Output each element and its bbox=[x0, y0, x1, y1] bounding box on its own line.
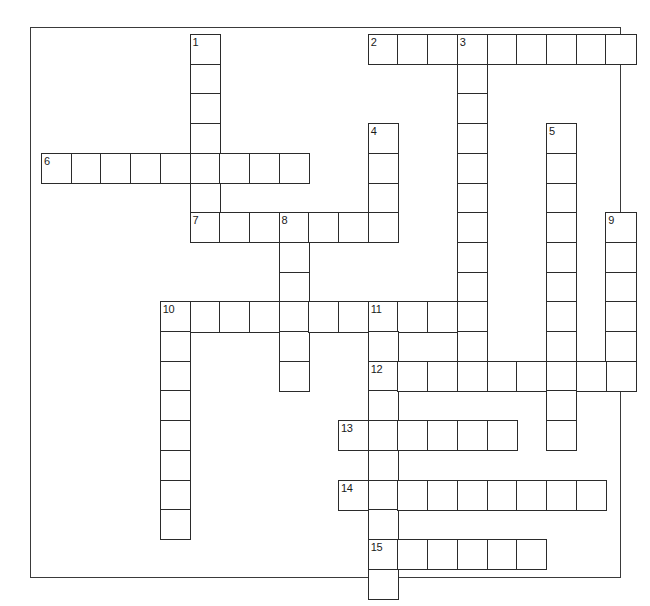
crossword-cell[interactable] bbox=[308, 212, 339, 243]
crossword-cell[interactable] bbox=[427, 301, 458, 332]
crossword-cell[interactable] bbox=[160, 153, 191, 184]
crossword-cell[interactable] bbox=[546, 480, 577, 511]
crossword-cell[interactable] bbox=[368, 123, 399, 154]
crossword-cell[interactable] bbox=[457, 212, 488, 243]
crossword-cell[interactable] bbox=[160, 480, 191, 511]
crossword-cell[interactable] bbox=[279, 153, 310, 184]
crossword-cell[interactable] bbox=[368, 509, 399, 540]
crossword-cell[interactable] bbox=[427, 34, 458, 65]
crossword-cell[interactable] bbox=[160, 450, 191, 481]
crossword-cell[interactable] bbox=[190, 301, 221, 332]
crossword-cell[interactable] bbox=[368, 331, 399, 362]
crossword-cell[interactable] bbox=[487, 361, 518, 392]
crossword-cell[interactable] bbox=[368, 390, 399, 421]
crossword-cell[interactable] bbox=[546, 212, 577, 243]
crossword-cell[interactable] bbox=[427, 480, 458, 511]
crossword-cell[interactable] bbox=[190, 183, 221, 214]
crossword-cell[interactable] bbox=[308, 301, 339, 332]
crossword-cell[interactable] bbox=[516, 539, 547, 570]
crossword-cell[interactable] bbox=[368, 212, 399, 243]
crossword-cell[interactable] bbox=[397, 34, 428, 65]
crossword-cell[interactable] bbox=[100, 153, 131, 184]
crossword-cell[interactable] bbox=[457, 480, 488, 511]
crossword-cell[interactable] bbox=[605, 212, 636, 243]
crossword-cell[interactable] bbox=[338, 212, 369, 243]
crossword-cell[interactable] bbox=[279, 212, 310, 243]
crossword-cell[interactable] bbox=[427, 361, 458, 392]
crossword-cell[interactable] bbox=[457, 539, 488, 570]
crossword-cell[interactable] bbox=[368, 569, 399, 600]
crossword-cell[interactable] bbox=[457, 361, 488, 392]
crossword-cell[interactable] bbox=[279, 331, 310, 362]
crossword-cell[interactable] bbox=[368, 183, 399, 214]
crossword-cell[interactable] bbox=[368, 153, 399, 184]
crossword-cell[interactable] bbox=[487, 34, 518, 65]
crossword-cell[interactable] bbox=[160, 390, 191, 421]
crossword-cell[interactable] bbox=[397, 539, 428, 570]
crossword-cell[interactable] bbox=[457, 183, 488, 214]
crossword-cell[interactable] bbox=[160, 420, 191, 451]
crossword-cell[interactable] bbox=[487, 420, 518, 451]
crossword-cell[interactable] bbox=[368, 420, 399, 451]
crossword-cell[interactable] bbox=[546, 272, 577, 303]
crossword-cell[interactable] bbox=[576, 480, 607, 511]
crossword-cell[interactable] bbox=[605, 272, 636, 303]
crossword-cell[interactable] bbox=[457, 153, 488, 184]
crossword-cell[interactable] bbox=[605, 301, 636, 332]
crossword-cell[interactable] bbox=[397, 361, 428, 392]
crossword-cell[interactable] bbox=[249, 153, 280, 184]
crossword-cell[interactable] bbox=[487, 480, 518, 511]
crossword-cell[interactable] bbox=[160, 361, 191, 392]
crossword-cell[interactable] bbox=[605, 331, 636, 362]
crossword-cell[interactable] bbox=[546, 123, 577, 154]
crossword-cell[interactable] bbox=[427, 539, 458, 570]
crossword-cell[interactable] bbox=[190, 93, 221, 124]
crossword-cell[interactable] bbox=[338, 480, 369, 511]
crossword-cell[interactable] bbox=[190, 34, 221, 65]
crossword-cell[interactable] bbox=[397, 480, 428, 511]
crossword-cell[interactable] bbox=[576, 361, 607, 392]
crossword-cell[interactable] bbox=[368, 480, 399, 511]
crossword-cell[interactable] bbox=[338, 420, 369, 451]
crossword-cell[interactable] bbox=[338, 301, 369, 332]
crossword-cell[interactable] bbox=[546, 34, 577, 65]
crossword-cell[interactable] bbox=[546, 361, 577, 392]
crossword-cell[interactable] bbox=[546, 183, 577, 214]
crossword-cell[interactable] bbox=[130, 153, 161, 184]
crossword-cell[interactable] bbox=[279, 301, 310, 332]
crossword-cell[interactable] bbox=[516, 34, 547, 65]
crossword-cell[interactable] bbox=[397, 420, 428, 451]
crossword-cell[interactable] bbox=[249, 301, 280, 332]
crossword-cell[interactable] bbox=[160, 301, 191, 332]
crossword-cell[interactable] bbox=[457, 272, 488, 303]
crossword-cell[interactable] bbox=[368, 539, 399, 570]
crossword-cell[interactable] bbox=[219, 212, 250, 243]
crossword-cell[interactable] bbox=[279, 272, 310, 303]
crossword-cell[interactable] bbox=[457, 331, 488, 362]
crossword-cell[interactable] bbox=[190, 123, 221, 154]
crossword-cell[interactable] bbox=[457, 34, 488, 65]
crossword-cell[interactable] bbox=[249, 212, 280, 243]
crossword-cell[interactable] bbox=[368, 301, 399, 332]
crossword-cell[interactable] bbox=[546, 390, 577, 421]
crossword-cell[interactable] bbox=[457, 420, 488, 451]
crossword-cell[interactable] bbox=[576, 34, 607, 65]
crossword-cell[interactable] bbox=[368, 361, 399, 392]
crossword-cell[interactable] bbox=[279, 242, 310, 273]
crossword-cell[interactable] bbox=[219, 153, 250, 184]
crossword-cell[interactable] bbox=[41, 153, 72, 184]
crossword-grid[interactable]: 123456789101112131415 bbox=[31, 28, 620, 577]
crossword-cell[interactable] bbox=[546, 331, 577, 362]
crossword-cell[interactable] bbox=[368, 450, 399, 481]
crossword-cell[interactable] bbox=[605, 361, 636, 392]
crossword-cell[interactable] bbox=[457, 123, 488, 154]
crossword-cell[interactable] bbox=[516, 361, 547, 392]
crossword-cell[interactable] bbox=[457, 242, 488, 273]
crossword-cell[interactable] bbox=[546, 420, 577, 451]
crossword-cell[interactable] bbox=[546, 242, 577, 273]
crossword-cell[interactable] bbox=[457, 64, 488, 95]
crossword-cell[interactable] bbox=[190, 212, 221, 243]
crossword-cell[interactable] bbox=[190, 64, 221, 95]
crossword-cell[interactable] bbox=[219, 301, 250, 332]
crossword-cell[interactable] bbox=[160, 509, 191, 540]
